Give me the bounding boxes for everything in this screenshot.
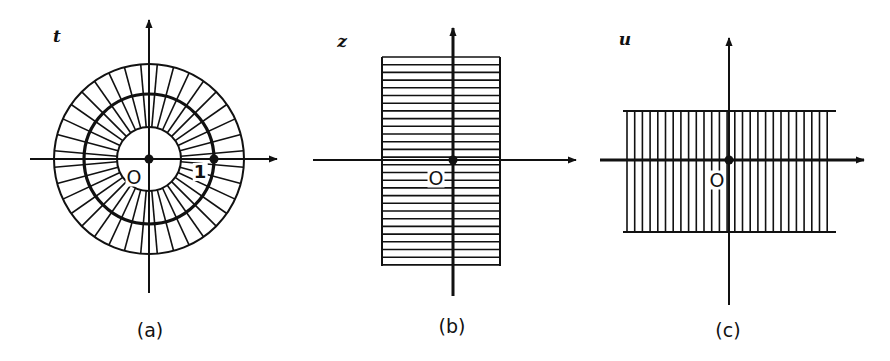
unit-label: 1 — [193, 163, 208, 181]
caption-c: (c) — [715, 321, 740, 340]
variable-label-u: u — [619, 31, 631, 48]
origin-dot-icon — [145, 155, 154, 164]
conformal-map-figure: t O 1 (a) z O (b) u O (c) — [0, 0, 890, 361]
caption-a: (a) — [137, 321, 163, 340]
origin-label: O — [428, 169, 445, 188]
caption-b: (b) — [439, 317, 466, 336]
vertical-hatch-lines — [627, 111, 827, 232]
variable-label-t: t — [53, 28, 61, 45]
unit-point-dot-icon — [210, 155, 219, 164]
panel-a-annulus — [30, 20, 277, 293]
origin-dot-icon — [449, 156, 458, 165]
origin-label: O — [126, 168, 143, 187]
panel-b-vertical-strip — [313, 28, 576, 296]
origin-dot-icon — [725, 156, 734, 165]
origin-label: O — [709, 171, 726, 190]
panel-c-horizontal-strip — [600, 38, 864, 305]
variable-label-z: z — [337, 33, 347, 50]
